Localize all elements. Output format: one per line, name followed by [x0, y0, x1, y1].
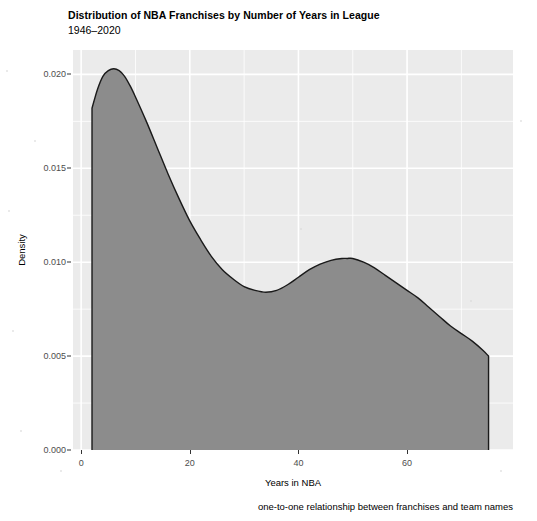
y-axis-tick-mark — [67, 262, 71, 263]
scan-speckle — [12, 330, 14, 332]
chart-caption: one-to-one relationship between franchis… — [73, 501, 513, 512]
chart-subtitle: 1946–2020 — [68, 23, 508, 37]
title-block: Distribution of NBA Franchises by Number… — [68, 8, 508, 37]
scan-speckle — [34, 140, 36, 142]
scan-speckle — [6, 70, 8, 72]
page-title: Distribution of NBA Franchises by Number… — [68, 8, 508, 22]
x-axis-tick-label: 0 — [61, 458, 101, 468]
x-axis-tick-label: 40 — [278, 458, 318, 468]
density-area-fill — [92, 69, 489, 450]
density-plot-figure: Distribution of NBA Franchises by Number… — [0, 0, 537, 521]
scan-speckle — [8, 210, 10, 212]
y-axis-tick-mark — [67, 356, 71, 357]
x-axis-tick-mark — [298, 450, 299, 454]
x-axis-tick-mark — [407, 450, 408, 454]
y-axis-tick-mark — [67, 450, 71, 451]
x-axis-tick-label: 20 — [170, 458, 210, 468]
scan-speckle — [520, 120, 522, 122]
scan-speckle — [300, 228, 302, 230]
x-axis-tick-mark — [81, 450, 82, 454]
plot-panel — [73, 50, 513, 450]
x-axis-tick-label: 60 — [387, 458, 427, 468]
scan-speckle — [500, 470, 502, 472]
scan-speckle — [470, 300, 472, 302]
scan-speckle — [60, 470, 62, 472]
y-axis-tick-mark — [67, 74, 71, 75]
scan-speckle — [20, 430, 22, 432]
x-axis-title: Years in NBA — [73, 477, 513, 488]
x-axis-ticks: 0204060 — [73, 450, 513, 474]
y-axis-tick-marks — [26, 50, 73, 450]
y-axis-tick-mark — [67, 168, 71, 169]
x-axis-tick-mark — [190, 450, 191, 454]
plot-canvas — [73, 50, 513, 450]
